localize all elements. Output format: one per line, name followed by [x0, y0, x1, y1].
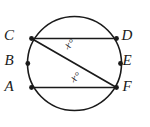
point-label-d: D	[121, 27, 133, 43]
point-marker-a	[29, 85, 34, 90]
point-label-a: A	[3, 78, 14, 94]
point-label-f: F	[121, 78, 132, 94]
point-marker-b	[25, 61, 30, 66]
point-marker-c	[29, 36, 34, 41]
point-label-e: E	[121, 52, 131, 68]
geometry-figure: CBADEF x°x°	[0, 0, 150, 127]
point-marker-d	[114, 36, 119, 41]
point-marker-f	[114, 85, 119, 90]
circle-geometry-diagram: CBADEF x°x°	[0, 0, 150, 127]
point-label-b: B	[4, 52, 13, 68]
point-label-c: C	[4, 27, 15, 43]
